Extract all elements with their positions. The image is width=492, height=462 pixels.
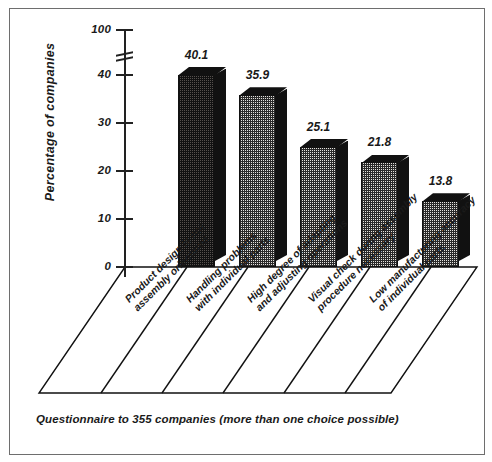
bar-4-value-label: 21.8	[368, 135, 391, 149]
bar-1-side-face	[215, 69, 226, 262]
chart-plot-area: 100 40 30 20 10 0 Percentage of companie…	[10, 9, 486, 456]
bar-1-value-label: 40.1	[185, 48, 208, 62]
bars-group: 40.1 35.9 25.1 21.8	[10, 9, 486, 267]
bar-2-side-face	[276, 89, 287, 261]
bar-2-value-label: 35.9	[246, 68, 269, 82]
chart-frame: 100 40 30 20 10 0 Percentage of companie…	[9, 8, 485, 455]
bar-3-value-label: 25.1	[307, 120, 330, 134]
bar-5-value-label: 13.8	[429, 174, 452, 188]
chart-footnote: Questionnaire to 355 companies (more tha…	[36, 413, 399, 425]
bar-3-side-face	[337, 141, 348, 262]
